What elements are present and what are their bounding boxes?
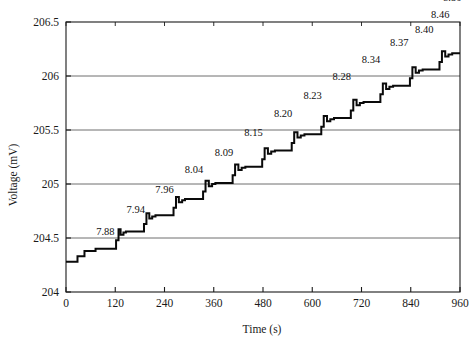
x-axis-title: Time (s)	[243, 323, 282, 336]
step-value-label: 8.50	[443, 0, 461, 3]
step-value-label: 8.04	[185, 164, 204, 175]
x-axis-tick-labels: 0120240360480600720840960	[63, 297, 469, 309]
data-point-labels: 7.887.947.968.048.098.158.208.238.288.34…	[96, 0, 470, 237]
axes-frame	[66, 22, 460, 292]
x-tick-label: 480	[254, 297, 272, 309]
voltage-staircase-line	[66, 51, 460, 262]
y-tick-label: 206	[42, 70, 60, 82]
y-tick-label: 205	[42, 178, 60, 190]
x-tick-label: 0	[63, 297, 69, 309]
step-value-label: 8.28	[333, 71, 351, 82]
y-axis-title: Voltage (mV)	[7, 143, 20, 206]
voltage-vs-time-chart: 0120240360480600720840960 204204.5205205…	[0, 0, 475, 342]
step-value-label: 8.34	[362, 54, 381, 65]
y-axis-tick-labels: 204204.5205205.5206206.5	[33, 16, 59, 298]
x-tick-label: 120	[107, 297, 125, 309]
grid-lines	[66, 76, 460, 238]
y-tick-label: 206.5	[33, 16, 59, 28]
x-axis-ticks	[66, 22, 460, 292]
x-tick-label: 240	[156, 297, 174, 309]
step-value-label: 8.37	[390, 37, 408, 48]
x-tick-label: 600	[304, 297, 322, 309]
step-value-label: 7.88	[96, 226, 114, 237]
x-tick-label: 720	[353, 297, 371, 309]
y-tick-label: 204.5	[33, 232, 59, 244]
step-value-label: 8.20	[274, 108, 292, 119]
step-value-label: 8.23	[303, 90, 321, 101]
step-value-label: 8.09	[215, 147, 233, 158]
data-series-voltage	[66, 51, 460, 262]
step-value-label: 8.40	[415, 24, 433, 35]
x-tick-label: 360	[205, 297, 223, 309]
x-tick-label: 840	[402, 297, 420, 309]
x-tick-label: 960	[451, 297, 469, 309]
step-value-label: 7.96	[155, 184, 173, 195]
step-value-label: 8.15	[244, 127, 262, 138]
step-value-label: 7.94	[127, 204, 146, 215]
y-tick-label: 204	[42, 286, 60, 298]
y-tick-label: 205.5	[33, 124, 59, 136]
plot-frame	[66, 22, 460, 292]
y-axis-ticks	[66, 22, 71, 292]
chart-canvas: 0120240360480600720840960 204204.5205205…	[0, 0, 475, 342]
step-value-label: 8.46	[431, 9, 449, 20]
